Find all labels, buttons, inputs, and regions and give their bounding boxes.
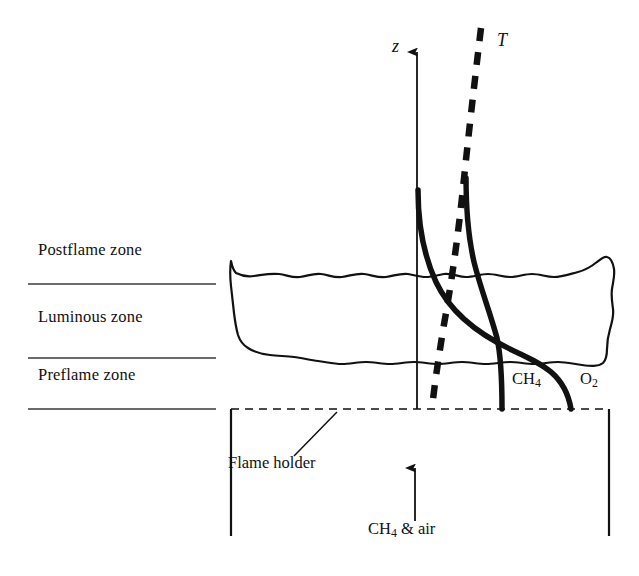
flame-zone-diagram: Postflame zone Luminous zone Preflame zo… [0,0,639,576]
oxygen-label-text: O [580,369,592,388]
flame-holder-leader-line [294,412,337,456]
flame-envelope-outline [230,257,614,366]
methane-curve-label: CH4 [512,369,541,391]
oxygen-label-subscript: 2 [592,376,598,390]
methane-label-subscript: 4 [535,376,541,390]
oxygen-curve [418,190,571,409]
inlet-label-text: CH [368,519,391,538]
zone-label-preflame: Preflame zone [38,365,135,385]
temperature-curve-label: T [497,30,507,51]
oxygen-curve-label: O2 [580,369,598,391]
zone-label-postflame: Postflame zone [38,240,142,260]
methane-curve [466,178,502,409]
inlet-label-rest: & air [397,519,436,538]
inlet-label: CH4 & air [368,519,435,541]
temperature-curve [432,28,481,409]
methane-label-text: CH [512,369,535,388]
flame-holder-label: Flame holder [228,453,316,473]
zone-divider-group [28,284,216,409]
z-axis-label: z [392,36,399,57]
diagram-canvas [0,0,639,576]
zone-label-luminous: Luminous zone [38,307,143,327]
